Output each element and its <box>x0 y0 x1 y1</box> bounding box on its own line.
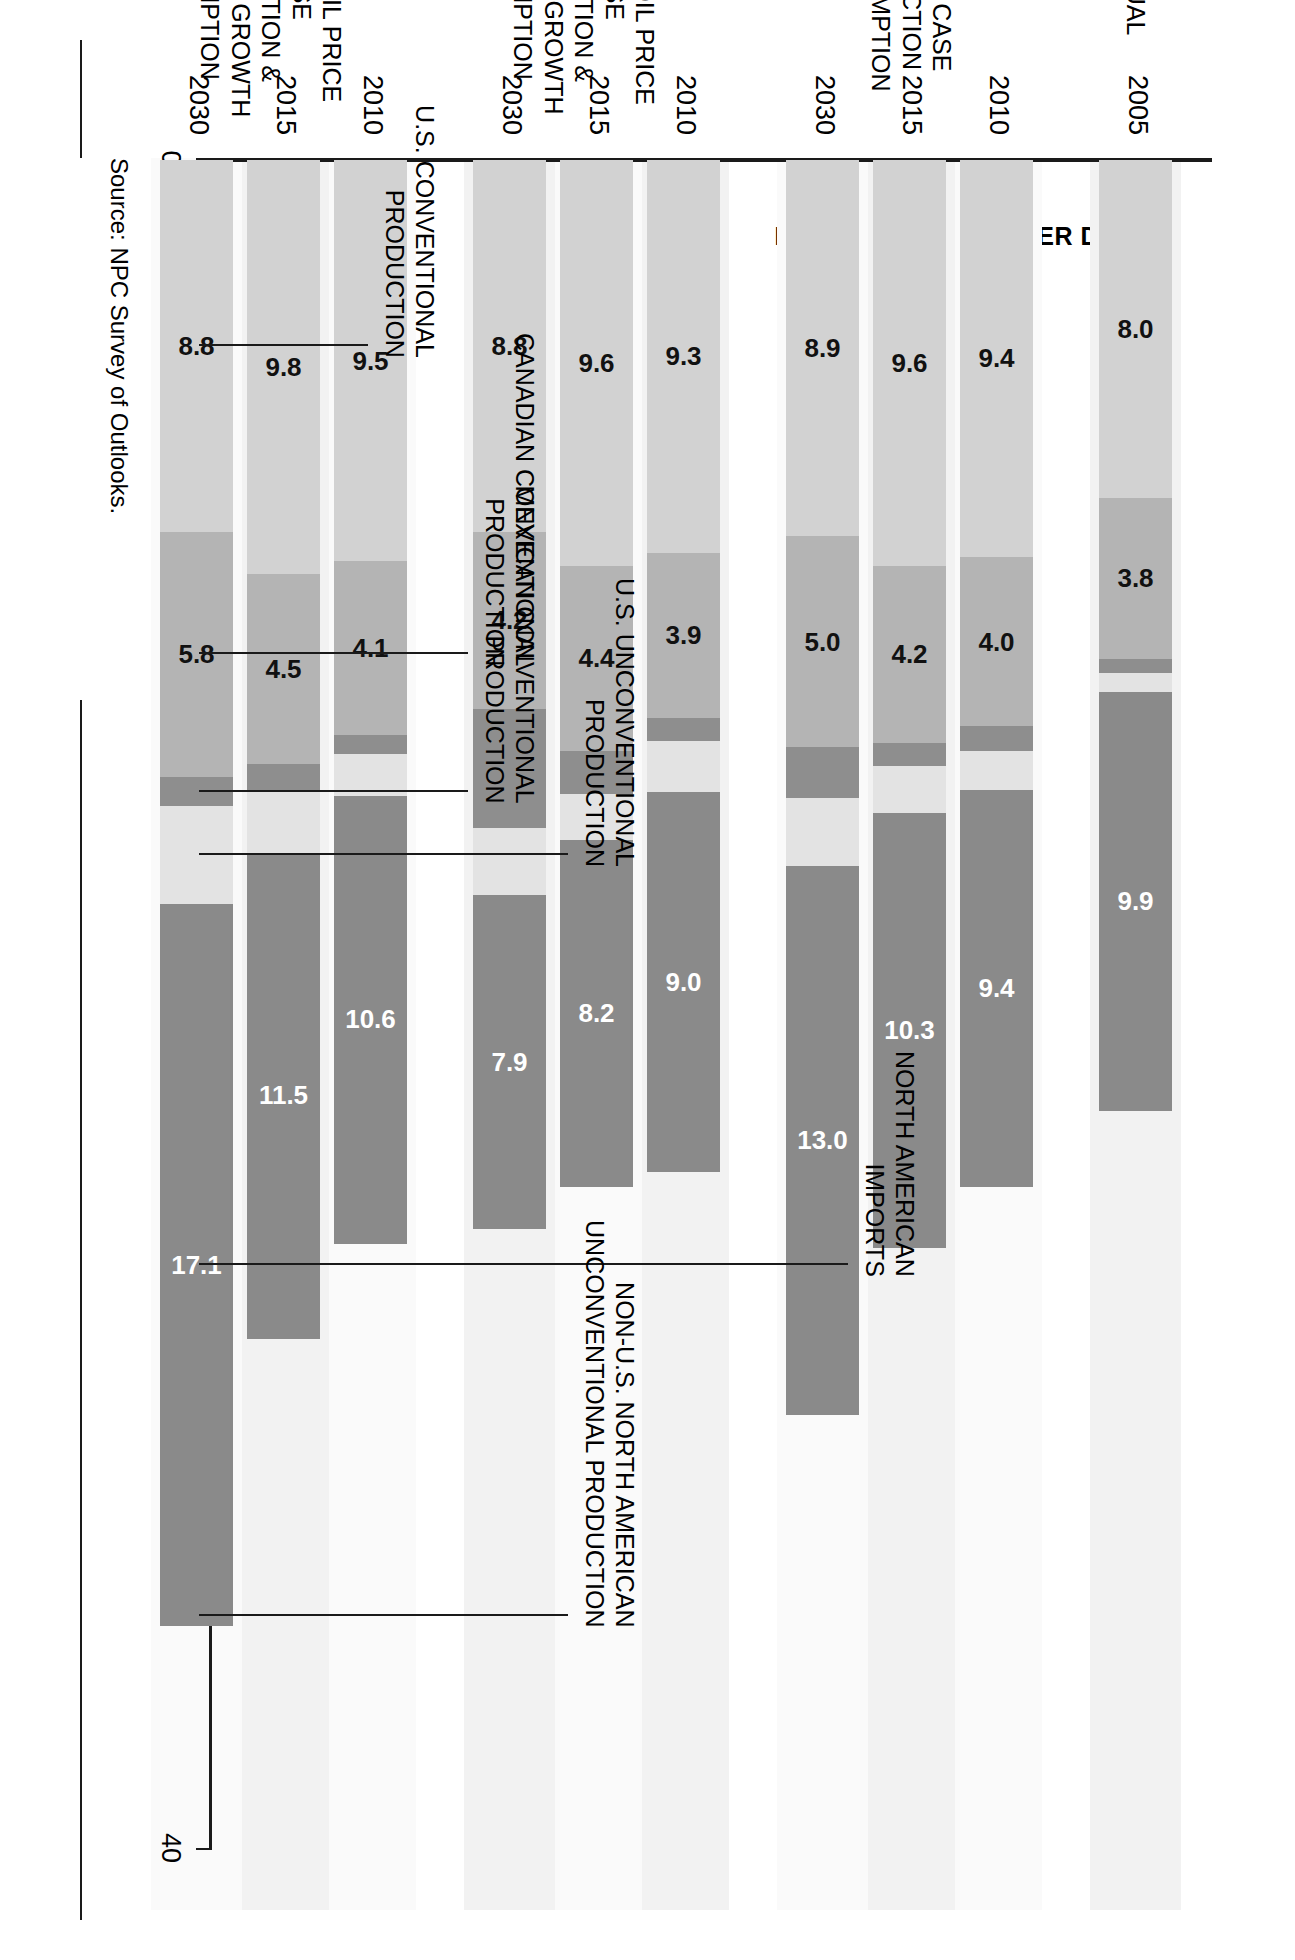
group-label-line: PRODUCTION & <box>256 0 287 136</box>
leader-line-mexican-conventional <box>199 790 468 792</box>
edge-rule-top <box>80 40 82 158</box>
bar-value-label: 9.4 <box>978 343 1014 374</box>
callout-north-american-imports: NORTH AMERICANIMPORTS <box>860 757 920 1277</box>
bar-value-label: 4.0 <box>978 626 1014 657</box>
bar-segment: 4.1 <box>334 561 407 734</box>
bar-segment: 8.9 <box>786 160 859 536</box>
bar-segment <box>334 735 407 754</box>
bar-value-label: 4.5 <box>265 654 301 685</box>
bar-2005-0: 8.03.89.9 <box>1099 160 1172 1111</box>
bar-segment: 5.8 <box>160 532 233 777</box>
bar-value-label: 3.8 <box>1117 563 1153 594</box>
bar-value-label: 9.3 <box>665 341 701 372</box>
bar-value-label: 10.6 <box>345 1004 396 1035</box>
bar-value-label: 3.9 <box>665 620 701 651</box>
leader-line-us-unconventional <box>199 853 568 855</box>
bar-segment <box>1099 673 1172 692</box>
group-label-line: EIA LOW OIL PRICE CASE <box>286 0 347 136</box>
rotated-figure-wrapper: MILLION BARRELS PER DAY 0102030408.03.89… <box>28 40 1268 1920</box>
group-label-line: & CONSUMPTION <box>866 0 897 136</box>
callout-line: IMPORTS <box>860 757 890 1277</box>
edge-rule-bottom <box>80 700 82 1920</box>
group-label-line: HIGH ECON GROWTH <box>225 0 256 136</box>
bar-value-label: 9.0 <box>665 966 701 997</box>
bar-segment <box>960 751 1033 789</box>
figure: MILLION BARRELS PER DAY 0102030408.03.89… <box>28 40 1268 1920</box>
bar-segment <box>960 726 1033 751</box>
callout-line: PRODUCTION <box>380 0 410 358</box>
bar-segment: 4.5 <box>247 574 320 764</box>
bar-segment: 4.2 <box>873 566 946 743</box>
bar-value-label: 4.1 <box>352 632 388 663</box>
bar-value-label: 8.8 <box>178 330 214 361</box>
bar-segment <box>786 798 859 866</box>
group-label-line: LOW ECON GROWTH <box>538 0 569 136</box>
bar-value-label: 8.9 <box>804 333 840 364</box>
bar-value-label: 8.0 <box>1117 314 1153 345</box>
bar-segment <box>247 764 320 789</box>
bar-segment <box>647 741 720 792</box>
axis-tick <box>196 1848 212 1850</box>
bar-segment: 3.8 <box>1099 498 1172 659</box>
leader-line-non-us-na-unconventional <box>199 1614 568 1616</box>
bar-value-label: 9.8 <box>265 352 301 383</box>
axis-tick-label: 40 <box>155 1813 186 1883</box>
plot-area: 0102030408.03.89.99.44.09.49.64.210.38.9… <box>212 158 1212 1848</box>
leader-line-north-american-imports <box>199 1263 848 1265</box>
bar-segment: 9.8 <box>247 160 320 574</box>
bar-segment: 9.0 <box>647 792 720 1172</box>
bar-segment: 3.9 <box>647 553 720 718</box>
group-label-line: CONSUMPTION <box>195 0 226 136</box>
group-label-line: ACTUAL <box>1121 0 1152 136</box>
bar-segment: 8.0 <box>1099 160 1172 498</box>
callout-us-unconventional: U.S. UNCONVENTIONALPRODUCTION <box>580 347 640 867</box>
callout-line: U.S. UNCONVENTIONAL <box>610 347 640 867</box>
bar-segment: 11.5 <box>247 853 320 1339</box>
bar-segment: 9.9 <box>1099 692 1172 1110</box>
callout-canadian-conventional: CANADIAN CONVENTIONALPRODUCTION <box>480 146 540 666</box>
bar-value-label: 9.6 <box>891 347 927 378</box>
group-label-high: EIA HIGH OIL PRICE CASEPRODUCTION &LOW E… <box>508 0 661 136</box>
bar-segment: 8.8 <box>160 160 233 532</box>
callout-line: UNCONVENTIONAL PRODUCTION <box>580 1108 610 1628</box>
bar-segment <box>247 790 320 853</box>
bar-segment: 4.0 <box>960 557 1033 726</box>
bar-segment: 9.4 <box>960 790 1033 1187</box>
bar-segment: 13.0 <box>786 866 859 1415</box>
bar-value-label: 9.9 <box>1117 886 1153 917</box>
callout-line: PRODUCTION <box>580 347 610 867</box>
bar-2030-3: 8.95.013.0 <box>786 160 859 1415</box>
bar-segment: 7.9 <box>473 895 546 1229</box>
bar-value-label: 9.4 <box>978 973 1014 1004</box>
source-note: Source: NPC Survey of Outlooks. <box>105 158 133 514</box>
group-label-line: PRODUCTION & <box>569 0 600 136</box>
bar-segment: 10.6 <box>334 796 407 1244</box>
callout-us-conventional: U.S. CONVENTIONALPRODUCTION <box>380 0 440 358</box>
leader-line-canadian-conventional <box>199 652 468 654</box>
bar-value-label: 11.5 <box>258 1080 307 1111</box>
category-label-4: 2010 <box>670 66 701 144</box>
group-label-ref: EIA REF CASEPRODUCTION& CONSUMPTION <box>866 0 958 136</box>
callout-line: PRODUCTION <box>480 146 510 666</box>
group-label-line: EIA HIGH OIL PRICE CASE <box>599 0 660 136</box>
callout-line: NON-U.S. NORTH AMERICAN <box>610 1108 640 1628</box>
group-label-line: EIA REF CASE <box>927 0 958 136</box>
bar-segment: 9.6 <box>873 160 946 566</box>
bar-segment <box>786 747 859 798</box>
callout-non-us-na-unconventional: NON-U.S. NORTH AMERICANUNCONVENTIONAL PR… <box>580 1108 640 1628</box>
bar-segment <box>473 828 546 896</box>
category-label-3: 2030 <box>809 66 840 144</box>
callout-line: CANADIAN CONVENTIONAL <box>510 146 540 666</box>
group-label-line: CONSUMPTION <box>508 0 539 136</box>
bar-2010-1: 9.44.09.4 <box>960 160 1033 1187</box>
bar-segment: 9.3 <box>647 160 720 553</box>
bar-2030-9: 8.85.817.1 <box>160 160 233 1626</box>
bar-2010-4: 9.33.99.0 <box>647 160 720 1172</box>
bar-value-label: 5.8 <box>178 639 214 670</box>
group-label-line: PRODUCTION <box>896 0 927 136</box>
bar-value-label: 13.0 <box>797 1125 848 1156</box>
bar-value-label: 4.2 <box>891 639 927 670</box>
leader-line-us-conventional <box>199 344 368 346</box>
bar-value-label: 7.9 <box>491 1047 527 1078</box>
bar-value-label: 5.0 <box>804 626 840 657</box>
